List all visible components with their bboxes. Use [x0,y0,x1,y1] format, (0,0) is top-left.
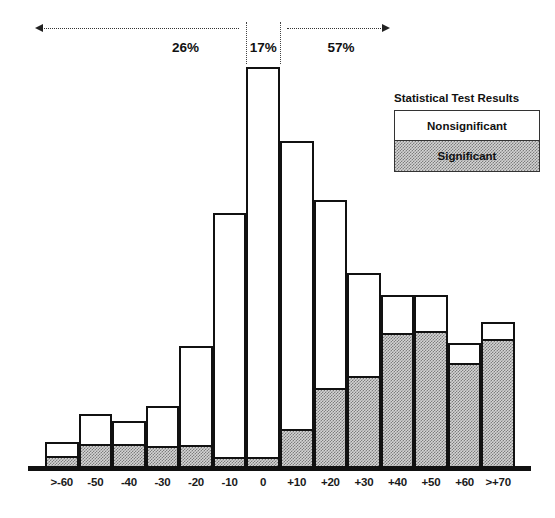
legend-item-significant: Significant [395,141,539,171]
x-tick-label-2: -40 [112,476,146,488]
bar-plus40 [381,295,415,468]
bar-segment-significant [181,445,211,467]
bar-segment-significant [383,333,413,467]
annotation-arrow-line [287,28,383,29]
bar--20 [179,346,213,468]
bar-plus20 [314,200,348,468]
bar--10 [213,213,247,468]
legend-box: Nonsignificant Significant [394,110,540,172]
bar-segment-significant [483,339,513,467]
histogram-chart: >-60-50-40-30-20-100+10+20+30+40+50+60>+… [0,0,555,518]
legend-label-nonsignificant: Nonsignificant [427,120,507,132]
legend-item-nonsignificant: Nonsignificant [395,111,539,141]
bar-segment-significant [114,444,144,467]
x-tick-label-5: -10 [213,476,247,488]
annotation-divider-left [246,22,247,64]
annotation-percent-right-segment: 57% [286,40,396,55]
annotation-arrow-left [35,28,246,30]
bar--40 [112,421,146,468]
x-tick-label-12: +60 [448,476,482,488]
annotation-divider-right [280,22,281,64]
bar-plus50 [414,295,448,468]
annotation-percent-left-segment: 26% [130,40,240,55]
x-tick-label-11: +50 [414,476,448,488]
bar-segment-significant [316,388,346,467]
x-tick-label-8: +20 [314,476,348,488]
bar-segment-significant [148,446,178,467]
legend-title: Statistical Test Results [394,92,540,104]
x-tick-label-10: +40 [381,476,415,488]
bar-segment-significant [282,429,312,467]
annotation-arrow-right [280,28,390,30]
annotation-arrowhead-right [382,24,390,32]
annotation-percent-center-segment: 17% [246,40,280,55]
bar-segment-significant [47,456,77,467]
legend-label-significant: Significant [438,150,497,162]
bar--50 [79,414,113,468]
x-tick-label-13: >+70 [481,476,515,488]
x-tick-label-1: -50 [79,476,113,488]
bar-gtplus70 [481,322,515,468]
bar-plus30 [347,273,381,468]
bar-segment-significant [248,457,278,467]
bar-segment-significant [81,444,111,467]
x-tick-label-7: +10 [280,476,314,488]
legend: Statistical Test Results Nonsignificant … [394,92,540,172]
x-tick-label-6: 0 [246,476,280,488]
x-tick-label-9: +30 [347,476,381,488]
bar-segment-significant [215,457,245,467]
x-tick-label-0: >-60 [45,476,79,488]
bar-segment-significant [349,376,379,467]
x-tick-label-3: -30 [146,476,180,488]
bar-0 [246,67,280,468]
annotation-arrowhead-left [35,24,43,32]
annotation-arrow-line [42,28,239,29]
x-axis-tick-labels: >-60-50-40-30-20-100+10+20+30+40+50+60>+… [45,476,515,496]
bar-gt-60 [45,442,79,468]
bar--30 [146,406,180,468]
bar-segment-significant [450,363,480,467]
bar-plus10 [280,141,314,468]
bar-segment-significant [416,331,446,467]
x-tick-label-4: -20 [179,476,213,488]
bar-plus60 [448,343,482,468]
